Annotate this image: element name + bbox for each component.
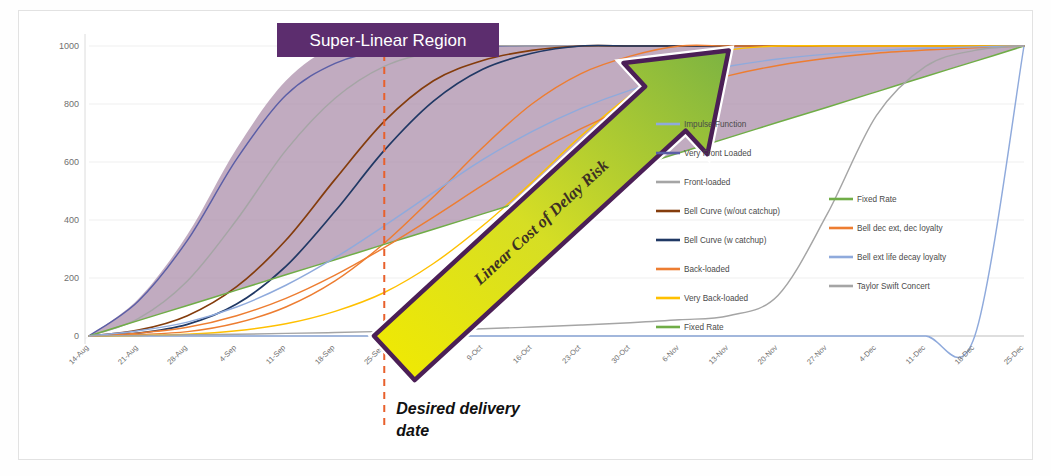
- x-axis-tick: 11-Dec: [904, 343, 927, 366]
- x-axis-tick: 20-Nov: [756, 343, 780, 367]
- legend-label: Bell Curve (w/out catchup): [684, 207, 780, 216]
- delivery-annotation: Desired deliverydate: [396, 400, 521, 439]
- x-axis-tick: 6-Nov: [660, 343, 681, 364]
- x-axis-tick: 18-Dec: [953, 343, 977, 367]
- x-axis-tick: 16-Oct: [511, 342, 534, 365]
- legend-label: Bell ext life decay loyalty: [857, 253, 947, 262]
- x-axis-tick: 21-Aug: [116, 343, 139, 366]
- x-axis-tick: 13-Nov: [707, 343, 731, 367]
- legend-label: Impulse Function: [684, 120, 747, 129]
- x-axis-tick: 9-Oct: [465, 342, 485, 362]
- x-axis-tick: 4-Sep: [218, 343, 239, 364]
- y-axis-tick: 0: [74, 331, 79, 341]
- legend-label: Fixed Rate: [684, 323, 724, 332]
- chart-page: 02004006008001000 14-Aug21-Aug28-Aug4-Se…: [0, 0, 1051, 476]
- x-axis-tick: 28-Aug: [165, 343, 188, 366]
- x-axis-tick: 27-Nov: [805, 343, 829, 367]
- legend-col1-item[interactable]: Back-loaded: [656, 265, 730, 274]
- legend-col2-item[interactable]: Bell dec ext, dec loyalty: [829, 224, 943, 233]
- legend-label: Back-loaded: [684, 265, 730, 274]
- x-axis-tick: 18-Sep: [313, 343, 336, 366]
- legend-label: Front-loaded: [684, 178, 731, 187]
- y-axis-tick: 1000: [59, 41, 79, 51]
- legend-col2-item[interactable]: Bell ext life decay loyalty: [829, 253, 947, 262]
- x-axis-tick: 30-Oct: [609, 342, 632, 365]
- y-axis-tick: 600: [64, 157, 79, 167]
- chart-legend: Impulse FunctionVery Front LoadedFront-l…: [656, 120, 947, 332]
- legend-col1-item[interactable]: Bell Curve (w catchup): [656, 236, 767, 245]
- legend-col1-item[interactable]: Front-loaded: [656, 178, 731, 187]
- legend-label: Bell dec ext, dec loyalty: [857, 224, 943, 233]
- legend-label: Very Back-loaded: [684, 294, 749, 303]
- x-axis-tick: 14-Aug: [67, 343, 90, 366]
- x-axis-tick: 4-Dec: [857, 343, 878, 364]
- legend-label: Very Front Loaded: [684, 149, 752, 158]
- legend-col2-item[interactable]: Taylor Swift Concert: [829, 282, 931, 291]
- x-axis-tick: 25-Dec: [1002, 343, 1026, 367]
- legend-label: Fixed Rate: [857, 195, 897, 204]
- legend-label: Taylor Swift Concert: [857, 282, 931, 291]
- delivery-label-line1: Desired delivery: [396, 400, 521, 417]
- chart-frame: 02004006008001000 14-Aug21-Aug28-Aug4-Se…: [18, 10, 1033, 460]
- x-axis-tick: 23-Oct: [560, 342, 583, 365]
- delivery-label-line2: date: [396, 422, 429, 439]
- y-axis-tick: 800: [64, 99, 79, 109]
- x-axis-tick: 11-Sep: [264, 343, 287, 366]
- banner-label: Super-Linear Region: [310, 31, 467, 50]
- y-axis-tick-labels: 02004006008001000: [59, 41, 79, 341]
- legend-col1-item[interactable]: Fixed Rate: [656, 323, 724, 332]
- x-axis-tick-labels: 14-Aug21-Aug28-Aug4-Sep11-Sep18-Sep25-Se…: [67, 342, 1026, 366]
- legend-label: Bell Curve (w catchup): [684, 236, 767, 245]
- legend-col1-item[interactable]: Very Back-loaded: [656, 294, 749, 303]
- y-axis-tick: 200: [64, 273, 79, 283]
- super-linear-region-banner: Super-Linear Region: [277, 23, 499, 57]
- legend-col1-item[interactable]: Bell Curve (w/out catchup): [656, 207, 780, 216]
- y-axis-tick: 400: [64, 215, 79, 225]
- legend-col2-item[interactable]: Fixed Rate: [829, 195, 897, 204]
- chart-canvas: 02004006008001000 14-Aug21-Aug28-Aug4-Se…: [19, 11, 1032, 459]
